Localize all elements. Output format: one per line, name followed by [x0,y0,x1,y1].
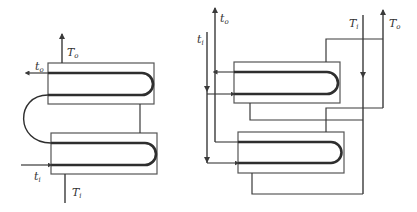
left-series-exchanger: To to ti Ti [21,34,157,203]
label-tube-inlet: ti [197,33,204,47]
label-shell-inlet: Ti [72,186,82,200]
top-shell [48,63,154,104]
label-tube-outlet: to [35,60,44,74]
shell-inlet-arrow [360,72,366,78]
lower-shell [238,132,344,173]
upper-u-tube [234,72,338,94]
bottom-shell [51,133,157,174]
tube-crossover [24,95,51,143]
label-shell-outlet: To [389,17,401,31]
right-parallel-exchanger: to ti Ti To [197,8,401,194]
heat-exchanger-diagram: To to ti Ti to [0,0,417,212]
shell-inlet-branch-upper [250,103,363,120]
lower-u-tube [238,142,342,163]
bottom-u-tube [51,143,156,165]
top-u-tube [48,73,153,95]
label-tube-inlet: ti [34,170,41,184]
label-shell-outlet: To [67,46,79,60]
upper-shell [234,62,340,103]
label-tube-outlet: to [220,12,229,26]
label-shell-inlet: Ti [349,17,359,31]
shell-inlet-branch-lower [252,173,363,194]
tube-inlet-arrow-1 [204,86,210,92]
tube-inlet-arrow-2 [204,157,210,163]
shell-outlet-branch-upper [326,39,383,62]
